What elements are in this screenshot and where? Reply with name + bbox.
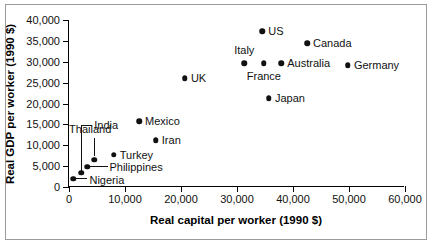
data-point-label-us: US (268, 25, 283, 37)
y-axis-tick-label: 40,000 (26, 14, 60, 26)
y-axis-title-text: Real GDP per worker (1990 $) (4, 23, 16, 183)
y-axis-tick (63, 62, 69, 63)
data-point-label-germany: Germany (354, 59, 399, 71)
y-axis-tick (63, 145, 69, 146)
data-point-france (261, 61, 267, 67)
data-point-label-nigeria: Nigeria (89, 174, 124, 186)
data-point-italy (242, 61, 248, 67)
data-point-mexico (136, 118, 142, 124)
label-leader-line (94, 138, 95, 156)
y-axis-tick (63, 104, 69, 105)
data-point-label-philippines: Philippines (109, 161, 162, 173)
x-axis-title: Real capital per worker (1990 $) (68, 214, 404, 226)
x-axis-tick-label: 0 (66, 193, 72, 205)
y-axis-tick (63, 41, 69, 42)
label-leader-line (90, 166, 108, 167)
data-point-japan (266, 95, 272, 101)
y-axis-tick-label: 35,000 (26, 35, 60, 47)
label-leader-line (81, 125, 82, 173)
data-point-uk (182, 75, 188, 81)
data-point-label-italy: Italy (234, 44, 254, 56)
x-axis-tick (237, 186, 238, 192)
data-point-australia (278, 61, 284, 67)
x-axis-tick (405, 186, 406, 192)
data-point-turkey (111, 152, 117, 158)
data-point-label-australia: Australia (287, 57, 330, 69)
data-point-us (259, 29, 265, 35)
scatter-chart-figure: Real GDP per worker (1990 $) 05,00010,00… (0, 0, 432, 247)
label-leader-line (76, 178, 87, 179)
data-point-philippines (85, 164, 91, 170)
data-point-label-mexico: Mexico (145, 115, 180, 127)
y-axis-tick-label: 15,000 (26, 118, 60, 130)
x-axis-tick (293, 186, 294, 192)
plot-area: 05,00010,00015,00020,00025,00030,00035,0… (68, 20, 404, 187)
x-axis-tick-label: 20,000 (164, 193, 198, 205)
y-axis-tick-label: 30,000 (26, 56, 60, 68)
y-axis-tick-label: 5,000 (32, 160, 60, 172)
x-axis-tick-label: 60,000 (388, 193, 422, 205)
data-point-nigeria (71, 176, 77, 182)
y-axis-tick (63, 83, 69, 84)
data-point-label-france: France (247, 70, 281, 82)
data-point-iran (153, 137, 159, 143)
data-point-label-uk: UK (191, 72, 206, 84)
data-point-label-japan: Japan (275, 92, 305, 104)
y-axis-tick-label: 10,000 (26, 139, 60, 151)
x-axis-tick-label: 50,000 (332, 193, 366, 205)
data-point-label-turkey: Turkey (120, 149, 153, 161)
y-axis-title: Real GDP per worker (1990 $) (2, 20, 18, 187)
x-axis-tick (181, 186, 182, 192)
y-axis-tick-label: 25,000 (26, 77, 60, 89)
x-axis-tick (69, 186, 70, 192)
y-axis-tick-label: 0 (54, 181, 60, 193)
x-axis-tick-label: 40,000 (276, 193, 310, 205)
x-axis-tick-label: 10,000 (108, 193, 142, 205)
x-axis-tick (125, 186, 126, 192)
data-point-label-iran: Iran (162, 134, 181, 146)
x-axis-tick-label: 30,000 (220, 193, 254, 205)
y-axis-tick (63, 166, 69, 167)
y-axis-tick-label: 20,000 (26, 98, 60, 110)
data-point-label-canada: Canada (313, 37, 352, 49)
data-point-thailand (91, 157, 97, 163)
x-axis-tick (349, 186, 350, 192)
label-leader-line (81, 125, 92, 126)
x-axis-title-text: Real capital per worker (1990 $) (150, 214, 322, 226)
y-axis-tick (63, 20, 69, 21)
data-point-germany (345, 62, 351, 68)
data-point-canada (304, 41, 310, 47)
data-point-label-india: India (94, 119, 118, 131)
